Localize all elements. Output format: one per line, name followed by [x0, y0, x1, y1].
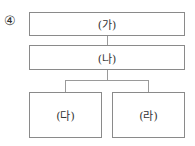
node-na-label: (나): [98, 50, 117, 66]
connector-ga-na: [107, 36, 108, 45]
option-number-4: ④: [4, 13, 16, 28]
node-ra: (라): [112, 92, 185, 138]
connector-to-da: [65, 80, 66, 92]
node-ga: (가): [29, 12, 185, 36]
node-na: (나): [29, 45, 185, 70]
connector-to-ra: [148, 80, 149, 92]
node-ra-label: (라): [139, 107, 158, 123]
node-ga-label: (가): [98, 16, 117, 32]
node-da: (다): [29, 92, 102, 138]
connector-branch-horizontal: [65, 80, 149, 81]
node-da-label: (다): [56, 107, 75, 123]
